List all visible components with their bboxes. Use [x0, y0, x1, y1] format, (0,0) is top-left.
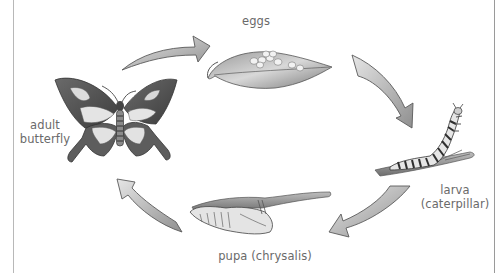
- stage-label-adult-butterfly: adult butterfly: [14, 118, 76, 146]
- eggs-on-leaf-illustration: [207, 51, 332, 88]
- pupa-label-text: pupa (chrysalis): [218, 249, 312, 263]
- stage-label-pupa: pupa (chrysalis): [200, 249, 330, 263]
- arrow-larva-to-pupa-icon: [329, 186, 410, 237]
- larva-caterpillar-illustration: [375, 103, 474, 176]
- stage-label-larva: larva (caterpillar): [415, 183, 495, 211]
- arrow-pupa-to-adult-icon: [117, 179, 182, 232]
- eggs-label-text: eggs: [242, 14, 270, 28]
- arrow-eggs-to-larva-icon: [352, 55, 413, 128]
- larva-label-line1: larva: [415, 183, 495, 197]
- pupa-chrysalis-illustration: [190, 192, 331, 234]
- arrow-adult-to-eggs-icon: [122, 36, 210, 70]
- stage-label-eggs: eggs: [236, 14, 276, 28]
- life-cycle-diagram: eggs adult butterfly larva (caterpillar)…: [0, 0, 498, 273]
- adult-label-line1: adult: [14, 118, 76, 132]
- larva-label-line2: (caterpillar): [415, 197, 495, 211]
- adult-label-line2: butterfly: [14, 132, 76, 146]
